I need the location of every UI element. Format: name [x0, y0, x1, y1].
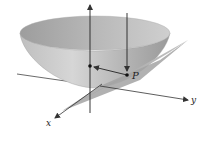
- axis-point: [88, 64, 92, 68]
- y-axis: [100, 86, 188, 100]
- paraboloid-diagram: P y x: [0, 0, 207, 146]
- point-p: [125, 73, 129, 77]
- x-axis-label: x: [46, 118, 51, 128]
- paraboloid-rim-interior: [20, 16, 170, 50]
- x-axis: [55, 84, 102, 118]
- y-axis-label: y: [190, 95, 197, 105]
- point-p-label: P: [131, 70, 139, 81]
